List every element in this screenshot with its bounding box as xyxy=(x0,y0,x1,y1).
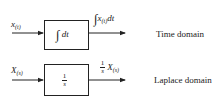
input-subscript: (s) xyxy=(17,70,23,76)
laplace-input-label: X(s) xyxy=(11,66,23,75)
integrator-block-label: ∫ dt xyxy=(56,28,69,41)
numerator: 1 xyxy=(63,73,67,80)
denominator: s xyxy=(63,81,66,88)
fraction: 1 s xyxy=(100,60,105,75)
input-subscript: (t) xyxy=(15,24,21,30)
fraction: 1 s xyxy=(62,73,67,88)
laplace-output-label: 1 s X(s) xyxy=(100,60,119,75)
time-output-label: ∫x(t)dt xyxy=(94,12,114,25)
integral-symbol: ∫ xyxy=(56,27,60,42)
laplace-domain-label: Laplace domain xyxy=(154,76,212,85)
numerator: 1 xyxy=(101,60,105,67)
block-operand: dt xyxy=(62,29,69,39)
one-over-s-block-label: 1 s xyxy=(62,73,67,88)
output-suffix: dt xyxy=(107,13,114,23)
time-input-label: x(t) xyxy=(11,20,21,29)
output-subscript: (s) xyxy=(113,67,119,73)
time-domain-label: Time domain xyxy=(156,30,204,39)
denominator: s xyxy=(101,68,104,75)
